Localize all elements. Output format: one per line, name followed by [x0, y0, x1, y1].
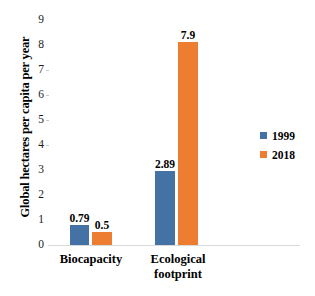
bar-footprint-2018[interactable]	[178, 42, 198, 245]
bar-wrap-biocapacity-2018: 0.5	[92, 14, 112, 245]
bar-biocapacity-2018[interactable]	[92, 232, 112, 245]
y-tick-9: 9	[30, 14, 44, 26]
bar-label-footprint-1999: 2.89	[148, 158, 182, 170]
bar-wrap-biocapacity-1999: 0.79	[70, 14, 89, 245]
y-tick-7: 7	[30, 64, 44, 76]
legend-swatch-icon-2018	[260, 151, 267, 158]
y-tick-4: 4	[30, 139, 44, 151]
y-tick-0: 0	[30, 239, 44, 251]
y-tick-6: 6	[30, 89, 44, 101]
legend-label-2018: 2018	[272, 149, 295, 161]
category-label-biocapacity: Biocapacity	[50, 252, 132, 267]
category-axis-line	[48, 245, 300, 246]
legend-item-2018[interactable]: 2018	[260, 145, 295, 164]
y-axis-tick-labels: 9 8 7 6 5 4 3 2 1 0	[26, 0, 44, 296]
y-tick-2: 2	[30, 189, 44, 201]
legend-item-1999[interactable]: 1999	[260, 126, 295, 145]
bar-label-footprint-2018: 7.9	[173, 29, 203, 41]
bar-footprint-1999[interactable]	[155, 171, 175, 245]
bar-wrap-footprint-2018: 7.9	[178, 14, 198, 245]
bar-wrap-footprint-1999: 2.89	[155, 14, 175, 245]
y-tick-5: 5	[30, 114, 44, 126]
y-tick-8: 8	[30, 39, 44, 51]
y-tick-3: 3	[30, 164, 44, 176]
legend: 1999 2018	[260, 126, 295, 164]
category-label-line-2: footprint	[136, 267, 220, 282]
y-tick-1: 1	[30, 214, 44, 226]
category-label-line-1: Ecological	[136, 252, 220, 267]
bar-chart: Global hectares per capita per year 9 8 …	[0, 0, 315, 296]
legend-label-1999: 1999	[272, 130, 295, 142]
legend-swatch-icon-1999	[260, 132, 267, 139]
bar-label-biocapacity-2018: 0.5	[87, 219, 117, 231]
category-label-ecological-footprint: Ecological footprint	[136, 252, 220, 282]
